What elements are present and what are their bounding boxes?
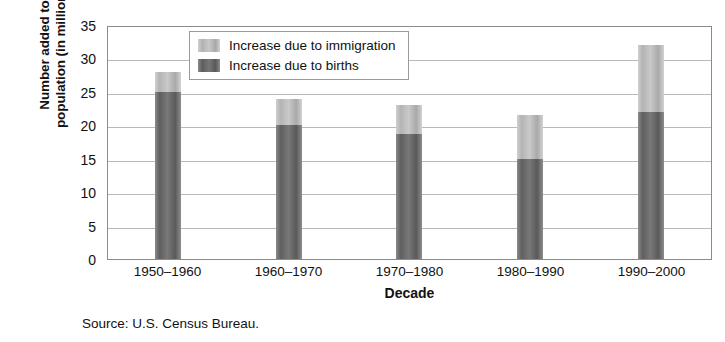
y-axis-tick-35: 35 xyxy=(80,18,96,34)
bar-segment-immigration xyxy=(276,99,302,126)
bar-segment-births xyxy=(276,125,302,259)
y-axis-tick-labels: 05101520253035 xyxy=(58,26,102,260)
x-axis-tick-1990–2000: 1990–2000 xyxy=(591,264,712,279)
y-axis-tick-20: 20 xyxy=(80,118,96,134)
bar-segment-births xyxy=(155,92,181,259)
bar-1950–1960[interactable] xyxy=(155,72,181,259)
bar-1990–2000[interactable] xyxy=(638,45,664,259)
bar-segment-immigration xyxy=(638,45,664,112)
bar-slot xyxy=(590,27,711,259)
legend: Increase due to immigration Increase due… xyxy=(189,31,409,80)
bar-segment-births xyxy=(396,134,422,259)
x-axis-tick-labels: 1950–19601960–19701970–19801980–19901990… xyxy=(107,264,712,284)
y-axis-tick-0: 0 xyxy=(88,252,96,268)
y-axis-tick-15: 15 xyxy=(80,152,96,168)
legend-label-births: Increase due to births xyxy=(229,58,359,73)
bar-1980–1990[interactable] xyxy=(517,115,543,259)
x-axis-tick-1960–1970: 1960–1970 xyxy=(228,264,349,279)
y-axis-tick-5: 5 xyxy=(88,219,96,235)
x-axis-label: Decade xyxy=(107,285,712,301)
bar-1960–1970[interactable] xyxy=(276,99,302,259)
bar-1970–1980[interactable] xyxy=(396,105,422,259)
source-caption: Source: U.S. Census Bureau. xyxy=(82,316,259,331)
bar-segment-immigration xyxy=(517,115,543,158)
y-axis-tick-30: 30 xyxy=(80,51,96,67)
bar-segment-immigration xyxy=(396,105,422,134)
bar-segment-births xyxy=(638,112,664,259)
y-axis-tick-10: 10 xyxy=(80,185,96,201)
x-axis-tick-1970–1980: 1970–1980 xyxy=(349,264,470,279)
legend-item-births: Increase due to births xyxy=(198,58,396,73)
plot-area: Increase due to immigration Increase due… xyxy=(107,26,712,260)
bar-segment-immigration xyxy=(155,72,181,92)
bar-segment-births xyxy=(517,159,543,259)
x-axis-tick-1950–1960: 1950–1960 xyxy=(107,264,228,279)
x-axis-tick-1980–1990: 1980–1990 xyxy=(470,264,591,279)
legend-label-immigration: Increase due to immigration xyxy=(229,38,396,53)
bar-slot xyxy=(470,27,591,259)
y-axis-tick-25: 25 xyxy=(80,85,96,101)
legend-swatch-births-icon xyxy=(198,59,220,72)
legend-swatch-immigration-icon xyxy=(198,39,220,52)
population-growth-bar-chart: Number added to population (in millions)… xyxy=(0,0,725,342)
y-axis-label-line-1: Number added to xyxy=(37,0,53,110)
legend-item-immigration: Increase due to immigration xyxy=(198,38,396,53)
